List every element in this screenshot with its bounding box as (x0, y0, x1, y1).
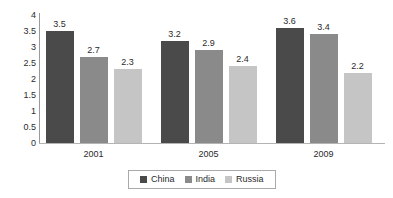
bar-fill (229, 66, 257, 143)
bar-india-2001: 2.7 (80, 57, 108, 143)
chart-legend: ChinaIndiaRussia (128, 170, 276, 189)
bar-china-2009: 3.6 (276, 28, 304, 143)
bar-value-label: 2.2 (351, 62, 364, 71)
bar-fill (310, 34, 338, 143)
bar-value-label: 2.9 (202, 39, 215, 48)
bar-chart: 00.511.522.533.54 3.52.72.33.22.92.43.63… (0, 0, 393, 198)
legend-item-china: China (140, 175, 175, 184)
bar-fill (46, 31, 74, 143)
bar-china-2001: 3.5 (46, 31, 74, 143)
x-axis-category-label: 2009 (313, 148, 333, 160)
bar-india-2005: 2.9 (195, 50, 223, 143)
bar-fill (344, 73, 372, 143)
legend-label: Russia (236, 175, 264, 184)
legend-label: China (151, 175, 175, 184)
legend-swatch-icon (140, 176, 147, 183)
y-axis-tick-label: 3 (2, 43, 36, 52)
bar-fill (276, 28, 304, 143)
bar-india-2009: 3.4 (310, 34, 338, 143)
bar-fill (80, 57, 108, 143)
y-axis-tick-label: 2 (2, 75, 36, 84)
y-axis-tick-label: 2.5 (2, 59, 36, 68)
bar-value-label: 3.5 (53, 20, 66, 29)
y-axis-tick-label: 0.5 (2, 123, 36, 132)
bar-russia-2001: 2.3 (114, 69, 142, 143)
y-axis-tick-label: 4 (2, 11, 36, 20)
y-axis-tick-label: 1.5 (2, 91, 36, 100)
legend-item-india: India (185, 175, 216, 184)
y-axis-tick-label: 1 (2, 107, 36, 116)
bar-group: 3.63.42.2 (276, 15, 372, 143)
legend-swatch-icon (185, 176, 192, 183)
bar-group: 3.52.72.3 (46, 15, 142, 143)
bar-fill (195, 50, 223, 143)
y-axis-tick-label: 3.5 (2, 27, 36, 36)
y-axis-tick-label: 0 (2, 139, 36, 148)
plot-area: 3.52.72.33.22.92.43.63.42.2 (40, 15, 385, 143)
legend-label: India (196, 175, 216, 184)
bar-russia-2009: 2.2 (344, 73, 372, 143)
bar-china-2005: 3.2 (161, 41, 189, 143)
x-axis-category-labels: 200120052009 (40, 148, 385, 162)
legend-item-russia: Russia (225, 175, 264, 184)
bar-value-label: 3.2 (168, 30, 181, 39)
x-axis-category-label: 2005 (198, 148, 218, 160)
bar-value-label: 2.4 (236, 55, 249, 64)
bar-group: 3.22.92.4 (161, 15, 257, 143)
legend-swatch-icon (225, 176, 232, 183)
bar-value-label: 3.6 (283, 17, 296, 26)
bar-value-label: 2.7 (87, 46, 100, 55)
bar-fill (114, 69, 142, 143)
bar-value-label: 2.3 (121, 58, 134, 67)
bar-value-label: 3.4 (317, 23, 330, 32)
bar-fill (161, 41, 189, 143)
bar-russia-2005: 2.4 (229, 66, 257, 143)
x-axis-category-label: 2001 (83, 148, 103, 160)
x-axis-line (39, 143, 385, 144)
y-axis-tick-labels: 00.511.522.533.54 (0, 15, 36, 143)
